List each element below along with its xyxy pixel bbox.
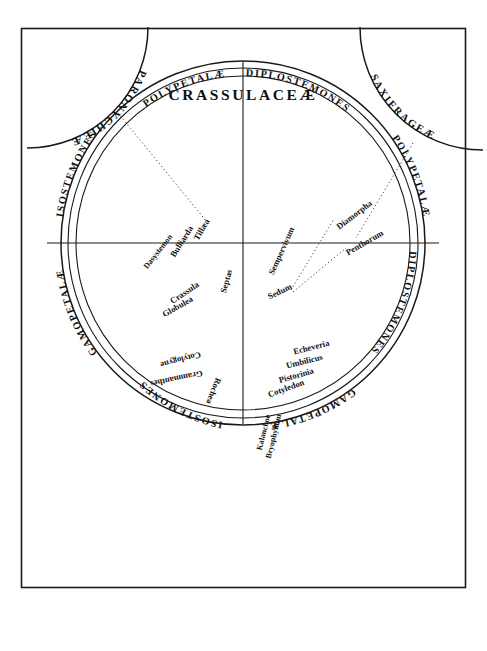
- corner-family-paronychieae: PARONYCHIEÆ: [27, 27, 149, 149]
- crassulaceae-affinity-diagram: PARONYCHIEÆ SAXIFRAGEÆ CRASSULACEÆ ISOST…: [0, 0, 487, 651]
- genus-sedum: Sedum: [266, 281, 294, 301]
- genus-sempervivum: Sempervivum: [266, 225, 296, 276]
- ring-label-gamopetalae-ll: GAMOPETALÆ: [54, 268, 99, 358]
- genus-penthorum: Penthorum: [344, 227, 386, 257]
- leader-paronychieae-tillaea: [118, 113, 207, 222]
- leader-sedum-penthorum: [293, 248, 346, 292]
- genera-upper-left: Tillæa Bulliarda Dasystemon Septas Crass…: [142, 216, 235, 319]
- genus-septas: Septas: [218, 268, 234, 294]
- genus-grammanthes: Grammanthes: [149, 369, 204, 390]
- ring-label-diplostemones-lr: DIPLOSTEMONES: [368, 251, 418, 357]
- main-circle: [47, 61, 439, 425]
- corner-label-paronychieae: PARONYCHIEÆ: [69, 69, 149, 149]
- genus-rochea: Rochea: [204, 377, 223, 407]
- corner-label-saxifrageae: SAXIFRAGEÆ: [368, 72, 437, 141]
- diagram-plate: PARONYCHIEÆ SAXIFRAGEÆ CRASSULACEÆ ISOST…: [0, 0, 487, 651]
- genus-bulliarda: Bulliarda: [168, 223, 195, 258]
- genus-cotylogyne: Cotylogyne: [159, 350, 202, 370]
- genera-upper-right: Sempervivum Sedum Diamorpha Penthorum: [266, 198, 386, 302]
- ring-label-polypetalae-ur: POLYPETALÆ: [390, 133, 432, 218]
- genus-diamorpha: Diamorpha: [334, 198, 374, 232]
- leader-sedum-diamorpha: [291, 219, 334, 290]
- genera-lower-right: Echeveria Umbilicus Pistorinia Cotyledon…: [255, 338, 331, 460]
